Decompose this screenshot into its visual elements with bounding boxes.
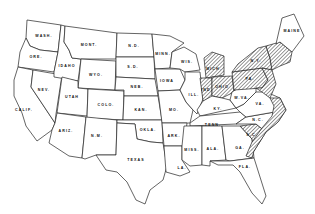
label-ar: ARK.: [167, 134, 180, 138]
label-co: COLO.: [98, 103, 115, 107]
label-tx: TEXAS: [127, 158, 144, 162]
state-mi: [204, 52, 224, 78]
label-ut: UTAH: [65, 95, 79, 99]
label-me: MAINE: [283, 29, 300, 33]
label-mn: MINN.: [155, 52, 171, 56]
label-ny: N.Y.: [251, 59, 262, 63]
label-or: ORE.: [29, 55, 42, 59]
label-fl: FLA.: [239, 165, 251, 169]
label-wa: WASH.: [35, 34, 52, 38]
label-ks: KAN.: [134, 108, 147, 112]
label-ms: MISS.: [184, 148, 199, 152]
label-ne: NEB.: [131, 85, 144, 89]
label-nd: N.D.: [128, 44, 140, 48]
label-id: IDAHO: [58, 64, 75, 68]
label-sc: S.C.: [246, 133, 257, 137]
label-mo: MO.: [169, 108, 179, 112]
label-pa: PA.: [245, 77, 254, 81]
label-la: LA.: [177, 166, 186, 170]
label-ga: GA.: [235, 146, 245, 150]
label-nc: N.C.: [252, 118, 264, 122]
us-map: WASH. ORE. CALIF. IDAHO NEV. MONT. WYO. …: [0, 0, 315, 214]
label-ky: KY.: [214, 107, 223, 111]
label-nm: N.M.: [91, 134, 103, 138]
label-mi: MICH.: [206, 67, 222, 71]
label-al: ALA.: [207, 147, 220, 151]
state-nm: [82, 117, 117, 159]
label-in: IND.: [201, 88, 213, 92]
label-tn: TENN.: [205, 123, 221, 127]
label-va: VA.: [255, 102, 264, 106]
label-oh: OHIO: [215, 85, 229, 89]
label-mt: MONT.: [81, 43, 98, 47]
label-ok: OKLA.: [140, 128, 157, 132]
label-il: ILL.: [189, 93, 200, 97]
label-wy: WYO.: [89, 73, 103, 77]
label-ia: IOWA: [160, 79, 174, 83]
state-ms: [182, 126, 202, 166]
label-sd: S.D.: [127, 65, 138, 69]
label-wv: W.VA.: [234, 96, 249, 100]
label-az: ARIZ.: [59, 129, 74, 133]
label-nv: NEV.: [38, 88, 50, 92]
label-ca: CALIF.: [15, 108, 33, 112]
label-wi: WIS.: [181, 60, 193, 64]
